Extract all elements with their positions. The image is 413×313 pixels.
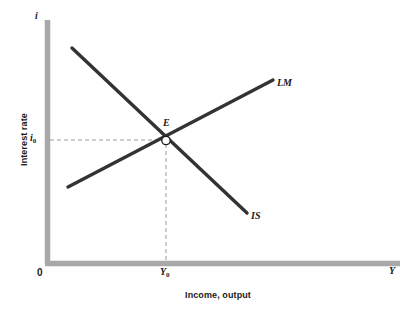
is-lm-chart-figure: i Y 0 i0 Y0 E LM IS Interest rate Income…	[0, 0, 413, 313]
origin-label: 0	[37, 268, 43, 278]
equilibrium-point-label: E	[163, 118, 170, 128]
y-axis-symbol-label: i	[35, 11, 38, 21]
income-equilibrium-label: Y0	[160, 267, 170, 277]
is-curve-label: IS	[251, 211, 260, 221]
x-axis-title: Income, output	[153, 291, 283, 300]
is-lm-plot-canvas	[0, 0, 413, 313]
i0-subscript: 0	[33, 137, 37, 145]
lm-curve-label: LM	[277, 78, 292, 88]
interest-rate-equilibrium-label: i0	[30, 133, 36, 143]
Y0-subscript: 0	[166, 271, 170, 279]
lm-curve	[68, 80, 273, 187]
y-axis-title: Interest rate	[20, 95, 29, 185]
x-axis-symbol-label: Y	[389, 266, 395, 276]
equilibrium-point-marker	[162, 136, 170, 144]
is-curve	[72, 48, 247, 213]
